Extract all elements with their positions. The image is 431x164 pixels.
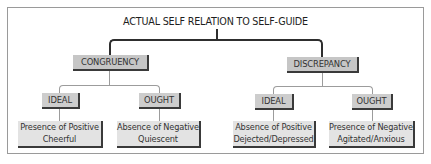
leaf-line1: Presence of Positive	[18, 122, 101, 134]
congruency-stem	[109, 71, 110, 85]
leaf-discrepancy-ideal: Absence of Positive Dejected/Depressed	[233, 121, 316, 148]
leaf-line1: Absence of Negative	[117, 122, 199, 134]
node-discrepancy-ought: OUGHT	[352, 94, 393, 110]
node-congruency-ideal: IDEAL	[42, 93, 80, 109]
discrepancy-stem	[322, 73, 323, 86]
diagram-title: ACTUAL SELF RELATION TO SELF-GUIDE	[0, 16, 431, 27]
leaf-line2: Quiescent	[117, 134, 199, 146]
stem-discrepancy-ought	[372, 110, 373, 121]
leaf-discrepancy-ought: Presence of Negative Agitated/Anxious	[329, 121, 415, 148]
root-connector-right	[216, 39, 323, 57]
root-connector-left	[109, 39, 218, 55]
discrepancy-connector	[273, 86, 373, 94]
node-congruency-ought: OUGHT	[139, 93, 181, 109]
leaf-line2: Cheerful	[18, 134, 101, 146]
leaf-line1: Absence of Positive	[233, 122, 314, 134]
leaf-congruency-ideal: Presence of Positive Cheerful	[18, 121, 103, 148]
node-discrepancy: DISCREPANCY	[287, 57, 359, 73]
node-discrepancy-ideal: IDEAL	[255, 94, 294, 110]
leaf-line2: Dejected/Depressed	[233, 134, 314, 146]
node-congruency: CONGRUENCY	[73, 55, 149, 71]
stem-discrepancy-ideal	[273, 110, 274, 121]
stem-congruency-ideal	[59, 109, 60, 121]
leaf-line2: Agitated/Anxious	[329, 134, 413, 146]
stem-congruency-ought	[159, 109, 160, 121]
leaf-congruency-ought: Absence of Negative Quiescent	[117, 121, 201, 148]
leaf-line1: Presence of Negative	[329, 122, 413, 134]
